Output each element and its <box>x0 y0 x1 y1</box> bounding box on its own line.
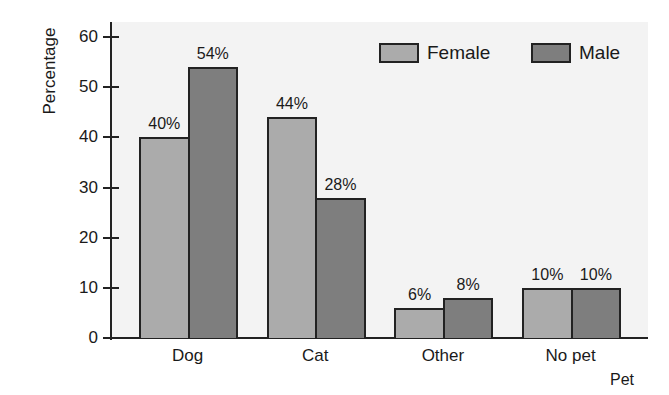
bar-value-label: 54% <box>183 45 243 63</box>
y-tick-label: 20 <box>58 229 98 247</box>
bar-male-other <box>443 298 494 338</box>
y-tick <box>103 136 119 138</box>
x-category-label: Cat <box>265 346 365 366</box>
legend-swatch-male <box>531 43 571 63</box>
legend-label-female: Female <box>427 42 490 64</box>
x-category-label: Dog <box>138 346 238 366</box>
y-tick-label: 50 <box>58 78 98 96</box>
bar-female-other <box>394 308 445 338</box>
y-tick <box>103 187 119 189</box>
bar-value-label: 40% <box>134 115 194 133</box>
y-tick-label: 0 <box>58 329 98 347</box>
bar-male-cat <box>315 198 366 338</box>
bar-value-label: 10% <box>566 266 626 284</box>
bar-female-dog <box>139 137 190 338</box>
legend-swatch-female <box>379 43 419 63</box>
y-tick <box>103 36 119 38</box>
legend-label-male: Male <box>579 42 620 64</box>
bar-value-label: 28% <box>310 176 370 194</box>
y-tick <box>103 237 119 239</box>
y-tick <box>103 86 119 88</box>
bar-value-label: 44% <box>262 95 322 113</box>
y-tick <box>103 287 119 289</box>
x-category-label: Other <box>393 346 493 366</box>
x-axis-label: Pet <box>610 371 634 389</box>
legend-item-female: Female <box>379 42 490 64</box>
bar-female-no-pet <box>522 288 573 338</box>
bar-male-dog <box>188 67 239 338</box>
legend-item-male: Male <box>531 42 620 64</box>
bar-female-cat <box>267 117 318 338</box>
bar-male-no-pet <box>571 288 622 338</box>
y-tick <box>103 337 119 339</box>
y-tick-label: 10 <box>58 279 98 297</box>
y-tick-label: 30 <box>58 179 98 197</box>
y-tick-label: 60 <box>58 28 98 46</box>
y-axis-line <box>110 22 112 340</box>
y-tick-label: 40 <box>58 128 98 146</box>
x-category-label: No pet <box>521 346 621 366</box>
bar-value-label: 8% <box>438 276 498 294</box>
